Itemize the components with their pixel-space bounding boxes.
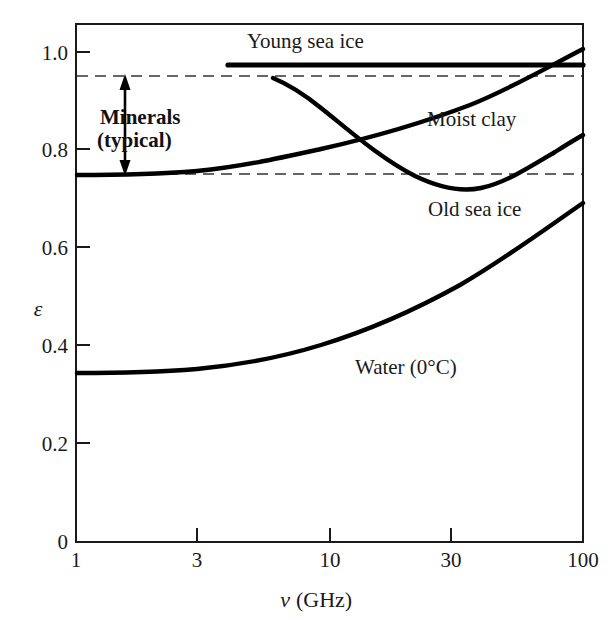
label-water: Water (0°C) bbox=[355, 355, 457, 379]
ytick-label-0: 0 bbox=[58, 530, 69, 554]
y-axis-title: ε bbox=[34, 296, 43, 321]
x-axis-title-nu: ν bbox=[280, 587, 290, 612]
label-young-sea-ice: Young sea ice bbox=[247, 29, 364, 53]
xtick-label-100: 100 bbox=[567, 548, 599, 572]
figure-container: 1.0 0.8 0.6 0.4 0.2 0 ε 1 3 10 30 100 ν … bbox=[0, 0, 612, 620]
minerals-label-line2: (typical) bbox=[97, 128, 172, 152]
label-moist-clay: Moist clay bbox=[427, 107, 517, 131]
xtick-label-10: 10 bbox=[320, 548, 341, 572]
x-axis-title-unit: (GHz) bbox=[296, 587, 352, 612]
xtick-label-1: 1 bbox=[71, 548, 82, 572]
ytick-label-0.6: 0.6 bbox=[42, 236, 68, 260]
x-axis-tick-labels: 1 3 10 30 100 bbox=[71, 548, 599, 572]
curve-old-sea-ice bbox=[273, 78, 583, 190]
xtick-label-30: 30 bbox=[441, 548, 462, 572]
ytick-label-0.4: 0.4 bbox=[42, 334, 69, 358]
minerals-label-line1: Minerals bbox=[100, 105, 180, 129]
ytick-label-1.0: 1.0 bbox=[42, 41, 68, 65]
ytick-label-0.8: 0.8 bbox=[42, 138, 68, 162]
ytick-label-0.2: 0.2 bbox=[42, 432, 68, 456]
chart-canvas: 1.0 0.8 0.6 0.4 0.2 0 ε 1 3 10 30 100 ν … bbox=[0, 0, 612, 620]
y-axis-ticks bbox=[76, 52, 90, 443]
y-axis-tick-labels: 1.0 0.8 0.6 0.4 0.2 0 bbox=[42, 41, 69, 554]
x-axis-ticks bbox=[197, 528, 451, 542]
plot-frame bbox=[76, 24, 583, 542]
curve-water bbox=[77, 203, 583, 373]
minerals-annotation: Minerals (typical) bbox=[97, 105, 180, 152]
label-old-sea-ice: Old sea ice bbox=[428, 197, 521, 221]
xtick-label-3: 3 bbox=[192, 548, 203, 572]
x-axis-title: ν (GHz) bbox=[280, 587, 352, 612]
